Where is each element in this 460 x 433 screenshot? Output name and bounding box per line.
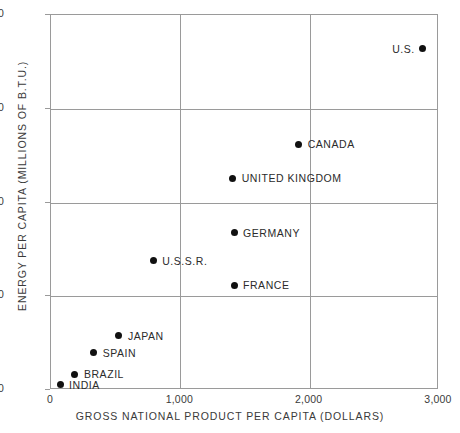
y-gridline [51, 296, 437, 297]
y-tick-mark [45, 108, 50, 109]
y-gridline [51, 203, 437, 204]
y-tick-mark [45, 295, 50, 296]
x-gridline [310, 15, 311, 388]
data-point-label: FRANCE [243, 279, 289, 291]
data-point[interactable] [231, 229, 238, 236]
y-axis-title: ENERGY PER CAPITA (MILLIONS OF B.T.U.) [16, 81, 28, 311]
data-point-label: UNITED KINGDOM [242, 172, 342, 184]
y-tick-label: 200 [0, 7, 4, 19]
y-tick-mark [45, 14, 50, 15]
data-point-label: U.S. [392, 43, 415, 55]
data-point[interactable] [115, 332, 122, 339]
data-point-label: JAPAN [128, 330, 164, 342]
y-tick-label: 100 [0, 195, 4, 207]
x-tick-label: 3,000 [424, 393, 451, 405]
y-gridline [51, 109, 437, 110]
data-point-label: INDIA [69, 379, 100, 391]
y-tick-label: 50 [0, 288, 4, 300]
data-point[interactable] [71, 371, 78, 378]
data-point[interactable] [150, 257, 157, 264]
scatter-chart: U.S.CANADAUNITED KINGDOMGERMANYU.S.S.R.F… [0, 0, 460, 433]
data-point-label: GERMANY [243, 227, 300, 239]
data-point[interactable] [231, 282, 238, 289]
data-point[interactable] [295, 141, 302, 148]
data-point-label: SPAIN [103, 347, 136, 359]
y-tick-mark [45, 202, 50, 203]
x-tick-label: 2,000 [295, 393, 322, 405]
x-gridline [180, 15, 181, 388]
data-point[interactable] [57, 381, 64, 388]
data-point-label: U.S.S.R. [162, 255, 207, 267]
data-point[interactable] [90, 349, 97, 356]
data-point-label: CANADA [308, 138, 355, 150]
y-tick-label: 150 [0, 101, 4, 113]
y-tick-label: 0 [0, 382, 4, 394]
plot-area: U.S.CANADAUNITED KINGDOMGERMANYU.S.S.R.F… [50, 14, 438, 389]
x-tick-label: 0 [47, 393, 53, 405]
y-tick-mark [45, 389, 50, 390]
x-tick-label: 1,000 [166, 393, 193, 405]
data-point[interactable] [229, 175, 236, 182]
x-axis-title: GROSS NATIONAL PRODUCT PER CAPITA (DOLLA… [0, 410, 460, 422]
data-point[interactable] [419, 45, 426, 52]
